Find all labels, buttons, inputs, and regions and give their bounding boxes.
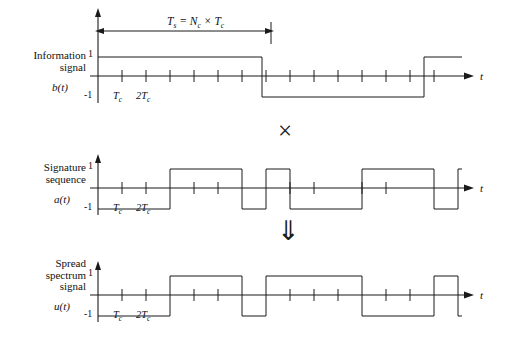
y-axis-arrow — [95, 261, 101, 270]
ts-arrow-right — [265, 28, 274, 34]
x-axis-arrow — [464, 73, 474, 80]
y-axis-arrow — [95, 8, 101, 17]
waveform-at — [98, 169, 462, 209]
signature-sequence-svg — [0, 150, 513, 230]
waveform-ut — [98, 276, 462, 316]
waveform-bt — [98, 57, 462, 97]
ts-arrow-left — [95, 28, 104, 34]
information-signal-svg — [0, 0, 513, 120]
x-axis-arrow — [464, 292, 474, 299]
x-axis-arrow — [464, 185, 474, 192]
spread-spectrum-signal-svg — [0, 252, 513, 337]
y-axis-arrow — [95, 154, 101, 163]
result-arrow-operator: ⇓ — [277, 218, 300, 245]
multiply-operator: × — [278, 118, 292, 143]
